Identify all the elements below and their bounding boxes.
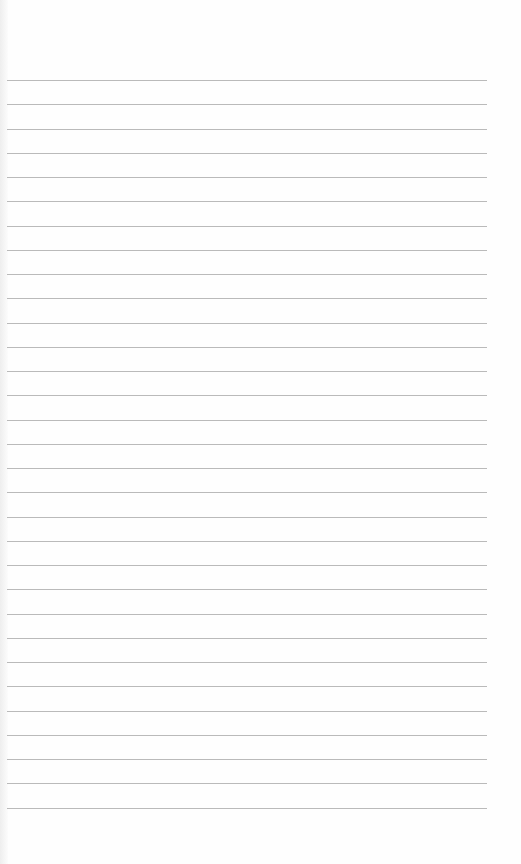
ruled-line bbox=[7, 226, 487, 227]
ruled-line bbox=[7, 589, 487, 590]
ruled-line bbox=[7, 565, 487, 566]
ruled-line bbox=[7, 250, 487, 251]
ruled-line bbox=[7, 638, 487, 639]
ruled-line bbox=[7, 783, 487, 784]
ruled-line bbox=[7, 662, 487, 663]
ruled-line bbox=[7, 201, 487, 202]
ruled-line bbox=[7, 517, 487, 518]
ruled-line bbox=[7, 492, 487, 493]
ruled-line bbox=[7, 686, 487, 687]
ruled-line bbox=[7, 371, 487, 372]
ruled-line bbox=[7, 177, 487, 178]
ruled-line bbox=[7, 129, 487, 130]
ruled-line bbox=[7, 80, 487, 81]
ruled-line bbox=[7, 274, 487, 275]
ruled-line bbox=[7, 444, 487, 445]
ruled-line bbox=[7, 104, 487, 105]
ruled-line bbox=[7, 298, 487, 299]
ruled-line bbox=[7, 153, 487, 154]
ruled-line bbox=[7, 323, 487, 324]
ruled-line bbox=[7, 347, 487, 348]
ruled-line bbox=[7, 395, 487, 396]
ruled-line bbox=[7, 759, 487, 760]
ruled-line bbox=[7, 420, 487, 421]
ruled-line bbox=[7, 541, 487, 542]
ruled-line bbox=[7, 711, 487, 712]
ruled-line bbox=[7, 735, 487, 736]
ruled-line bbox=[7, 614, 487, 615]
lined-paper bbox=[0, 0, 521, 864]
ruled-line bbox=[7, 468, 487, 469]
ruled-line bbox=[7, 808, 487, 809]
